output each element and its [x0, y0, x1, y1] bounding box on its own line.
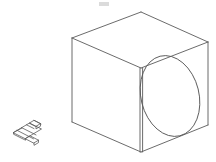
smudge-mark [99, 2, 109, 6]
cube-edge-bottom-left [72, 122, 141, 152]
isometric-drawing [0, 0, 216, 162]
bracket-lower-flange [26, 136, 39, 143]
bracket-upper-flange-edge [34, 120, 41, 124]
cube-group [72, 12, 208, 152]
cube-edge-top-left-front [72, 38, 141, 68]
bracket-part-group [14, 120, 42, 145]
cube-edge-top-back-right [141, 12, 208, 42]
bracket-fold-line-c [27, 125, 35, 129]
cube-edge-top-back-left [72, 12, 141, 38]
cube-edge-top-right-front [141, 42, 208, 68]
circular-hole-ellipse [132, 49, 208, 143]
drawing-canvas: Isometric wireframe cube with circular h… [0, 0, 216, 162]
cube-edge-bottom-right [141, 125, 208, 152]
